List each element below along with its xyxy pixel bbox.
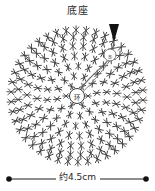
stitch-symbol xyxy=(87,139,95,149)
stitch-symbol xyxy=(54,154,62,164)
stitch-symbol xyxy=(136,77,146,85)
stitch-symbol xyxy=(8,108,18,116)
stitch-symbol xyxy=(113,90,122,96)
dimension-endpoint-right xyxy=(143,176,149,182)
center-ring-label: 环 xyxy=(74,94,81,102)
stitch-symbol xyxy=(65,131,72,140)
round-marker-label: ⑤ xyxy=(108,54,113,60)
stitch-symbol xyxy=(90,55,99,65)
stitch-symbol xyxy=(124,132,134,142)
stitch-symbol xyxy=(39,53,49,63)
diagram-title: 底座 xyxy=(0,5,155,17)
stitch-symbol xyxy=(53,96,61,102)
stitch-symbol xyxy=(92,28,100,38)
stitch-symbol xyxy=(98,108,107,116)
stitch-symbol xyxy=(23,102,32,109)
stitch-symbol xyxy=(70,33,76,42)
stitch-symbol xyxy=(76,62,81,70)
stitch-symbol xyxy=(88,79,97,88)
stitch-symbol xyxy=(44,86,52,93)
stitch-symbol xyxy=(24,81,34,89)
stitch-symbol xyxy=(93,90,101,96)
stitch-symbol xyxy=(86,129,94,139)
stitch-symbol xyxy=(67,141,74,150)
stitch-symbol xyxy=(20,51,30,61)
stitch-symbol xyxy=(15,125,25,134)
direction-arrow xyxy=(109,24,119,42)
stitch-symbol xyxy=(78,141,84,150)
stitch-symbol xyxy=(105,129,115,139)
stitch-symbol xyxy=(60,53,68,63)
stitch-symbol xyxy=(80,42,87,51)
stitch-symbol xyxy=(39,113,49,122)
stitch-symbol xyxy=(99,78,108,86)
stitch-symbol xyxy=(85,64,93,73)
stitch-symbol xyxy=(37,138,47,148)
stitch-symbol xyxy=(77,112,83,120)
stitch-symbol xyxy=(77,151,83,160)
stitch-symbol xyxy=(31,120,41,130)
stitch-symbol xyxy=(91,100,100,107)
stitch-symbol xyxy=(108,109,118,118)
stitch-symbol xyxy=(91,115,100,124)
stitch-symbol xyxy=(94,124,103,134)
stitch-symbol xyxy=(121,104,131,112)
stitch-symbol xyxy=(55,127,64,137)
stitch-symbol xyxy=(64,63,71,72)
stitch-symbol xyxy=(116,42,126,52)
stitch-symbol xyxy=(76,132,82,141)
stitch-symbol xyxy=(26,111,36,120)
stitch-symbol xyxy=(75,158,81,166)
stitch-symbol xyxy=(130,78,140,86)
stitch-symbol xyxy=(63,94,70,99)
stitch-symbol xyxy=(34,105,44,113)
stitch-symbol xyxy=(57,104,66,113)
stitch-symbol xyxy=(8,78,17,85)
stitch-symbol xyxy=(54,85,63,92)
dimension-label: 约4.5cm xyxy=(56,172,100,183)
stitch-symbol xyxy=(112,100,121,107)
stitch-symbol xyxy=(46,121,56,131)
stitch-symbol xyxy=(7,89,16,95)
stitch-symbol xyxy=(85,107,94,116)
stitch-symbol xyxy=(63,26,70,35)
stitch-symbol xyxy=(38,127,48,137)
stitch-symbol xyxy=(36,146,45,156)
stitch-symbol xyxy=(129,58,139,67)
stitch-symbol xyxy=(47,76,56,84)
stitch-symbol xyxy=(52,114,61,123)
stitch-symbol xyxy=(139,97,148,103)
stitch-symbol xyxy=(33,95,42,101)
stitch-symbol xyxy=(97,135,106,145)
stitch-symbol xyxy=(110,79,120,87)
stitch-symbol xyxy=(32,61,42,71)
stitch-symbol xyxy=(118,72,128,81)
stitch-symbol xyxy=(102,118,112,128)
stitch-symbol xyxy=(137,106,146,113)
stitch-symbol xyxy=(50,58,59,68)
stitch-symbol xyxy=(55,68,64,77)
stitch-symbol xyxy=(71,52,77,61)
stitch-symbol xyxy=(131,99,140,106)
stitch-symbol xyxy=(21,133,31,143)
stitch-symbol xyxy=(81,73,88,82)
stitch-symbol xyxy=(23,92,32,98)
stitch-symbol xyxy=(121,59,131,68)
stitch-symbol xyxy=(65,157,72,166)
stitch-symbol xyxy=(59,43,67,53)
stitch-symbol xyxy=(67,150,74,159)
stitch-symbol xyxy=(29,132,39,142)
stitch-symbol xyxy=(40,42,49,52)
stitch-symbol xyxy=(62,119,70,128)
stitch-symbol xyxy=(14,86,23,93)
stitch-symbol xyxy=(73,122,78,130)
stitch-symbol xyxy=(43,97,51,103)
crochet-chart-svg: 环 ⑤ xyxy=(0,18,155,170)
stitch-symbol xyxy=(112,121,122,131)
stitch-symbol xyxy=(110,145,120,155)
stitch-symbol xyxy=(123,94,132,100)
stitch-symbol xyxy=(85,94,92,99)
stitch-symbol xyxy=(71,72,77,80)
stitch-symbol xyxy=(70,42,76,51)
stitch-symbol xyxy=(113,63,123,73)
